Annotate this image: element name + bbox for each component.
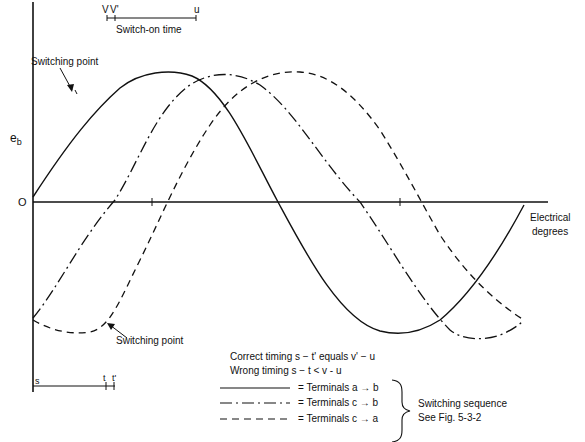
x-axis-label-line2: degrees <box>532 226 568 237</box>
legend-wrong-timing: Wrong timing s − t < v - u <box>230 365 342 376</box>
waveform-diagram: Switching point Switching point V V' u S… <box>0 0 585 442</box>
switch-on-v-label: V <box>102 4 109 15</box>
legend-entry-dash-dot: = Terminals c → b <box>298 397 379 408</box>
switching-point-top-arrowhead-icon <box>67 84 74 92</box>
curve-terminals-c-b <box>33 74 524 338</box>
switch-on-caption: Switch-on time <box>116 24 182 35</box>
switching-point-bottom-label: Switching point <box>116 335 183 346</box>
legend-correct-timing: Correct timing s − t' equals v' − u <box>230 351 375 362</box>
x-axis-label-line1: Electrical <box>530 212 571 223</box>
switching-point-top-mark <box>75 90 77 94</box>
brace-label-line2: See Fig. 5-3-2 <box>418 412 482 423</box>
origin-label: O <box>18 196 27 208</box>
t-label: t <box>103 373 106 383</box>
switching-point-bottom-arrowhead-icon <box>107 323 115 330</box>
switch-on-v-prime-label: V' <box>110 4 119 15</box>
legend-entry-dashed: = Terminals c → a <box>298 413 379 424</box>
legend-brace <box>392 380 410 442</box>
legend-entry-solid: = Terminals a → b <box>298 382 379 393</box>
brace-label-line1: Switching sequence <box>418 398 507 409</box>
t-prime-label: t' <box>112 373 117 383</box>
switching-point-top-label: Switching point <box>31 56 98 67</box>
s-label: s <box>35 376 40 386</box>
switch-on-u-label: u <box>194 4 200 15</box>
y-axis-label: eb <box>10 131 22 147</box>
